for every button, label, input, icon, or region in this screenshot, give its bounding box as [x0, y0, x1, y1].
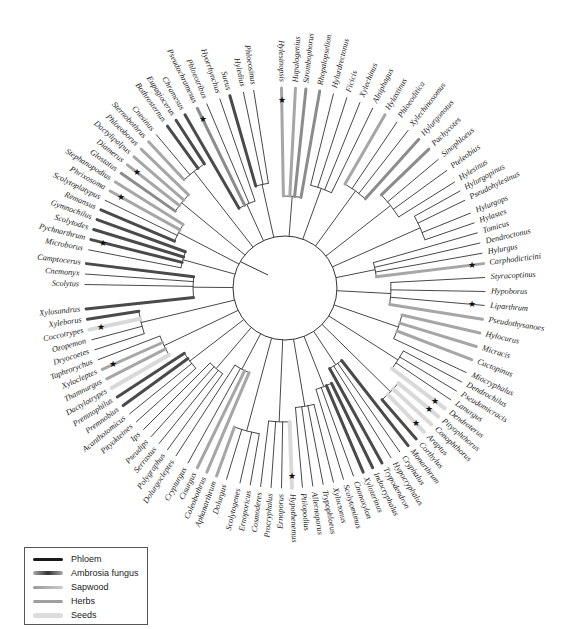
tip-branch-phloem — [282, 422, 283, 488]
clade-stem — [294, 339, 305, 406]
tip-branch-herbs — [115, 182, 183, 224]
tip-branch-phloem — [373, 233, 477, 263]
tip-branch-phloem — [188, 368, 240, 462]
star-marker-icon: ★ — [425, 404, 433, 414]
legend-box: Phloem Ambrosia fungus Sapwood Herbs See… — [24, 547, 148, 625]
tip-label: Hylesinopsis — [277, 39, 287, 82]
clade-stem — [182, 203, 245, 255]
tip-label: Liparthrum — [489, 301, 528, 313]
clade-stem — [326, 206, 391, 256]
star-marker-icon: ★ — [99, 238, 107, 248]
phylogenetic-tree: ★★★★★★★★★★★★★ HylesinopsisHapalogeniusSt… — [0, 0, 584, 629]
tip-branch-phloem — [271, 422, 276, 488]
tip-label: Pseudothysanoes — [487, 315, 545, 333]
clade-stem — [314, 331, 336, 364]
tip-branch-phloem — [418, 200, 465, 223]
legend-label: Ambrosia fungus — [71, 568, 139, 578]
tip-branch-phloem — [422, 213, 470, 232]
tip-branch-herbs — [197, 371, 244, 468]
tip-label: Rhopalopselion — [316, 34, 334, 87]
seeds-swatch — [33, 613, 63, 618]
star-marker-icon: ★ — [412, 418, 420, 428]
clade-stem — [336, 270, 375, 278]
tip-label: Hypothenemus — [288, 493, 299, 543]
legend-item-phloem: Phloem — [33, 552, 102, 566]
clade-stem — [337, 291, 391, 294]
tip-branch-herbs — [134, 157, 184, 200]
tip-branch-herbs — [290, 88, 296, 196]
tip-branch-ambrosia — [230, 96, 256, 186]
tip-label: Cnemonyx — [45, 266, 80, 277]
tip-branch-phloem — [318, 98, 347, 187]
clade-stem — [289, 196, 292, 236]
root-arc — [233, 236, 337, 340]
star-marker-icon: ★ — [468, 260, 476, 270]
tip-branch-ambrosia — [86, 298, 193, 309]
legend-item-herbs: Herbs — [33, 594, 95, 608]
star-marker-icon: ★ — [199, 114, 207, 124]
tip-label: Camptocerus — [37, 252, 81, 266]
tip-label: Micracis — [480, 343, 511, 360]
clade-stem — [179, 233, 239, 264]
tip-branch-herbs — [400, 323, 477, 346]
tip-branch-ambrosia — [117, 353, 184, 397]
tip-branch-phloem — [254, 90, 269, 183]
star-marker-icon: ★ — [109, 359, 117, 369]
tip-label: Hapalogenius — [291, 36, 302, 83]
tip-label: Ptilopodius — [299, 492, 311, 531]
clade-stem — [333, 228, 421, 267]
tip-branch-phloem — [302, 407, 313, 486]
ambrosia-swatch — [33, 571, 63, 575]
tip-label: Ernoporus — [276, 494, 286, 530]
tip-branch-phloem — [400, 357, 457, 391]
star-marker-icon: ★ — [97, 322, 105, 332]
clade-stem — [329, 316, 398, 360]
legend-item-seeds: Seeds — [33, 608, 97, 622]
tip-label: Cosmoderes — [250, 492, 264, 533]
phloem-swatch — [33, 558, 63, 561]
tip-branch-phloem — [95, 334, 144, 350]
tip-branch-herbs — [217, 427, 235, 476]
tip-branch-phloem — [85, 285, 193, 287]
tip-branch-ambrosia — [87, 311, 138, 319]
tip-branch-phloem — [250, 434, 259, 485]
star-marker-icon: ★ — [133, 167, 141, 177]
tip-branch-phloem — [136, 368, 195, 422]
star-marker-icon: ★ — [468, 299, 476, 309]
tip-label: Scolytus — [52, 279, 79, 288]
tip-branch-herbs — [141, 149, 188, 195]
tip-branch-phloem — [159, 370, 218, 443]
root-stub — [241, 262, 268, 275]
tip-label: Hylocurus — [484, 329, 520, 346]
tip-branch-phloem — [308, 406, 323, 485]
tip-label: Hyledius — [232, 56, 247, 87]
tip-branch-phloem — [243, 92, 263, 184]
tip-branch-phloem — [295, 408, 302, 488]
clade-stem — [262, 185, 274, 238]
tip-branch-sapwood — [365, 139, 419, 198]
tip-branch-phloem — [261, 421, 269, 487]
star-marker-icon: ★ — [278, 95, 286, 105]
tip-branch-phloem — [167, 374, 222, 450]
legend-label: Sapwood — [71, 582, 109, 592]
clade-stem — [164, 310, 238, 345]
tip-branch-phloem — [311, 94, 334, 185]
tip-branch-phloem — [375, 243, 480, 267]
tip-label: Procryphalus — [262, 493, 274, 539]
clade-stem — [183, 260, 235, 274]
tip-branch-phloem — [425, 223, 474, 240]
tip-label: Hypoborus — [490, 286, 528, 296]
star-marker-icon: ★ — [288, 471, 296, 481]
tip-branch-phloem — [391, 290, 485, 292]
star-marker-icon: ★ — [117, 192, 125, 202]
tip-label: Strombophorus — [301, 33, 315, 84]
legend-label: Herbs — [71, 596, 95, 606]
tip-branch-phloem — [359, 130, 408, 193]
clade-stem — [303, 188, 321, 239]
legend-label: Seeds — [71, 610, 97, 620]
tree-branches: ★★★★★★★★★★★★★ — [85, 88, 485, 488]
clade-stem — [190, 320, 244, 361]
clade-stem — [279, 340, 283, 422]
tip-branch-phloem — [414, 191, 459, 216]
clade-stem — [247, 204, 264, 240]
